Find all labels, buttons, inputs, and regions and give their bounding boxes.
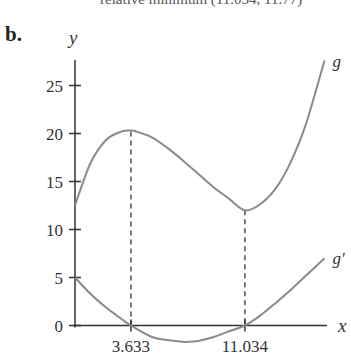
curve-g-prime (75, 258, 325, 342)
y-axis-label: y (67, 27, 78, 48)
curve-label-g-prime: g' (332, 249, 345, 268)
chart: 05101520253.63311.034 gg' y x (0, 0, 351, 359)
y-tick-label: 10 (46, 221, 63, 240)
x-tick-label: 11.034 (222, 337, 269, 356)
y-tick-label: 15 (46, 173, 63, 192)
y-tick-label: 25 (46, 77, 63, 96)
guide-lines (131, 132, 245, 326)
x-axis-label: x (337, 315, 347, 336)
axes: 05101520253.63311.034 (46, 60, 327, 356)
y-tick-label: 0 (55, 317, 64, 336)
y-tick-label: 20 (46, 125, 63, 144)
y-tick-label: 5 (55, 269, 64, 288)
curve-label-g: g (332, 52, 341, 71)
x-tick-label: 3.633 (112, 337, 150, 356)
curves: gg' (75, 52, 345, 342)
curve-g (75, 61, 325, 211)
